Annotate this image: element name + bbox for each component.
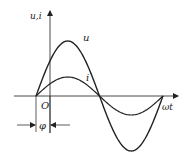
phase-label: φ xyxy=(39,120,46,131)
sine-phase-diagram: u,i ωt O u i φ xyxy=(0,0,187,165)
origin-label: O xyxy=(41,100,49,111)
curve-u-label: u xyxy=(83,32,89,43)
curve-i-label: i xyxy=(86,72,89,83)
horizontal-axis-label: ωt xyxy=(162,102,173,112)
vertical-axis-label: u,i xyxy=(30,11,42,21)
